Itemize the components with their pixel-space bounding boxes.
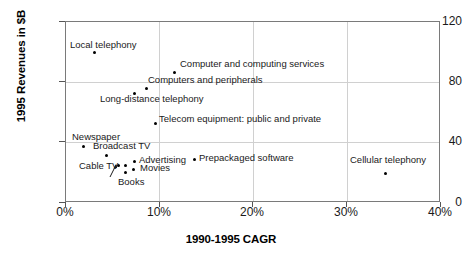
x-tick-label-0: 0% — [42, 206, 88, 218]
data-point-broadcast-tv — [105, 154, 108, 157]
gridline-vertical-10 — [159, 22, 160, 201]
point-label-prepackaged-software: Prepackaged software — [199, 153, 294, 163]
point-label-local-telephony: Local telephony — [70, 40, 137, 50]
point-label-computer-services: Computer and computing services — [180, 59, 324, 69]
data-point-cellular-telephony — [384, 172, 387, 175]
point-label-books: Books — [118, 177, 144, 187]
data-point-newspaper — [82, 145, 85, 148]
x-tick-label-30: 30% — [323, 206, 369, 218]
point-label-movies: Movies — [140, 163, 170, 173]
data-point-prepackaged-software — [193, 158, 196, 161]
data-point-computers-peripherals — [145, 87, 148, 90]
point-label-telecom-equipment: Telecom equipment: public and private — [159, 114, 321, 124]
x-tick-label-10: 10% — [136, 206, 182, 218]
point-label-broadcast-tv: Broadcast TV — [93, 141, 150, 151]
point-label-computers-peripherals: Computers and peripherals — [148, 75, 263, 85]
y-axis-title: 1995 Revenues in $B — [15, 1, 27, 131]
data-point-advertising — [133, 160, 136, 163]
gridline-vertical-30 — [347, 22, 348, 201]
x-axis-title: 1990-1995 CAGR — [0, 233, 462, 245]
x-tick-label-20: 20% — [229, 206, 275, 218]
data-point-cable-tv-secondary — [124, 164, 127, 167]
books-leader-line — [108, 163, 117, 177]
gridline-vertical-20 — [253, 22, 254, 201]
point-label-long-distance: Long-distance telephony — [100, 94, 204, 104]
data-point-telecom-equipment — [154, 122, 157, 125]
data-point-local-telephony — [93, 51, 96, 54]
data-point-movies — [132, 168, 135, 171]
data-point-books — [124, 171, 127, 174]
x-tick-label-40: 40% — [417, 206, 463, 218]
point-label-cellular-telephony: Cellular telephony — [350, 155, 426, 165]
